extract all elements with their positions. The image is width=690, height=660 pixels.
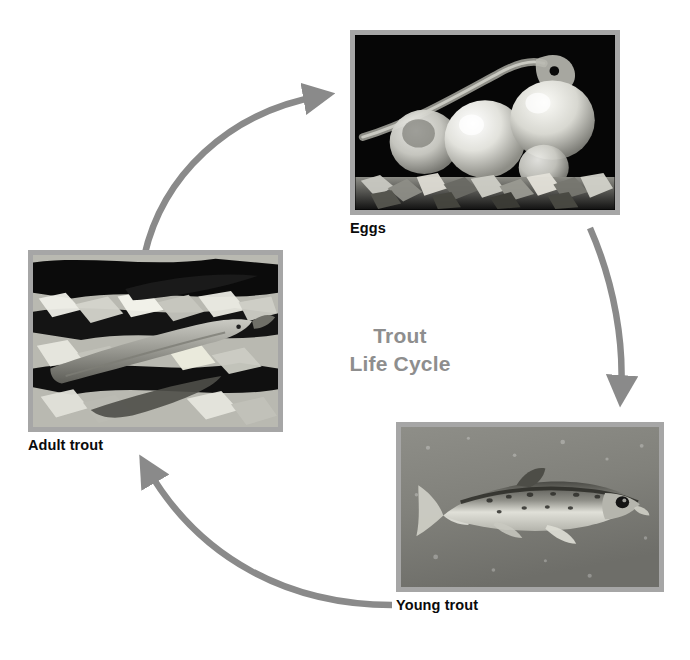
- title-line-2: Life Cycle: [300, 350, 500, 378]
- arrow-eggs-to-young: [590, 228, 622, 392]
- young-trout-label: Young trout: [396, 597, 664, 613]
- trout-life-cycle-diagram: Eggs: [0, 0, 690, 660]
- young-trout-photo: [396, 422, 664, 592]
- stage-eggs[interactable]: Eggs: [350, 30, 620, 236]
- adult-trout-photo: [28, 250, 283, 432]
- eggs-photo: [350, 30, 620, 215]
- stage-young-trout[interactable]: Young trout: [396, 422, 664, 613]
- arrow-young-to-adult: [147, 468, 392, 605]
- eggs-label: Eggs: [350, 220, 620, 236]
- title-line-1: Trout: [300, 322, 500, 350]
- adult-trout-label: Adult trout: [28, 437, 283, 453]
- arrow-adult-to-eggs: [143, 96, 320, 262]
- stage-adult-trout[interactable]: Adult trout: [28, 250, 283, 453]
- diagram-title: Trout Life Cycle: [300, 322, 500, 379]
